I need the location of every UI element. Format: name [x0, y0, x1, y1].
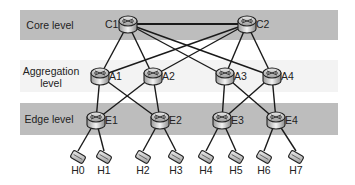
- router-icon: [151, 112, 169, 129]
- host-h6[interactable]: H6: [256, 150, 272, 176]
- host-label-h6: H6: [257, 164, 271, 176]
- network-topology: C1C2A1A2A3A4E1E2E3E4H0H1H2H3H4H5H6H7: [0, 0, 355, 185]
- host-icon: [96, 150, 112, 164]
- host-icon: [288, 150, 304, 164]
- host-label-h2: H2: [136, 164, 150, 176]
- switch-label-a3: A3: [234, 70, 247, 82]
- router-icon: [267, 112, 285, 129]
- switch-label-a2: A2: [162, 70, 175, 82]
- switch-label-e2: E2: [169, 114, 182, 126]
- host-label-h1: H1: [97, 164, 111, 176]
- host-h5[interactable]: H5: [228, 150, 244, 176]
- router-icon: [144, 68, 162, 85]
- host-h0[interactable]: H0: [70, 150, 86, 176]
- switch-a2[interactable]: A2: [144, 68, 175, 85]
- switch-label-e3: E3: [231, 114, 244, 126]
- host-icon: [135, 150, 151, 164]
- switch-a4[interactable]: A4: [263, 68, 294, 85]
- switch-e1[interactable]: E1: [87, 112, 118, 129]
- host-h2[interactable]: H2: [135, 150, 151, 176]
- router-icon: [213, 112, 231, 129]
- nodes-layer: C1C2A1A2A3A4E1E2E3E4H0H1H2H3H4H5H6H7: [70, 16, 304, 176]
- host-h4[interactable]: H4: [198, 150, 214, 176]
- router-icon: [119, 16, 137, 33]
- link-c2-a2: [153, 24, 247, 76]
- host-icon: [168, 150, 184, 164]
- switch-a3[interactable]: A3: [216, 68, 247, 85]
- switch-label-a4: A4: [281, 70, 294, 82]
- link-c1-a3: [128, 24, 225, 76]
- host-label-h0: H0: [71, 164, 85, 176]
- host-h3[interactable]: H3: [168, 150, 184, 176]
- switch-c1[interactable]: C1: [105, 16, 137, 33]
- links-layer: [78, 24, 296, 151]
- host-label-h7: H7: [289, 164, 303, 176]
- host-icon: [198, 150, 214, 164]
- switch-label-e1: E1: [105, 114, 118, 126]
- router-icon: [238, 16, 256, 33]
- switch-a1[interactable]: A1: [91, 68, 122, 85]
- switch-e2[interactable]: E2: [151, 112, 182, 129]
- router-icon: [216, 68, 234, 85]
- host-h1[interactable]: H1: [96, 150, 112, 176]
- host-icon: [256, 150, 272, 164]
- router-icon: [87, 112, 105, 129]
- router-icon: [263, 68, 281, 85]
- host-icon: [70, 150, 86, 164]
- switch-c2[interactable]: C2: [238, 16, 270, 33]
- host-h7[interactable]: H7: [288, 150, 304, 176]
- host-icon: [228, 150, 244, 164]
- switch-label-c2: C2: [256, 18, 270, 30]
- switch-label-c1: C1: [105, 18, 119, 30]
- switch-e4[interactable]: E4: [267, 112, 298, 129]
- router-icon: [91, 68, 109, 85]
- host-label-h4: H4: [199, 164, 213, 176]
- host-label-h5: H5: [229, 164, 243, 176]
- switch-label-e4: E4: [285, 114, 298, 126]
- switch-label-a1: A1: [109, 70, 122, 82]
- switch-e3[interactable]: E3: [213, 112, 244, 129]
- host-label-h3: H3: [169, 164, 183, 176]
